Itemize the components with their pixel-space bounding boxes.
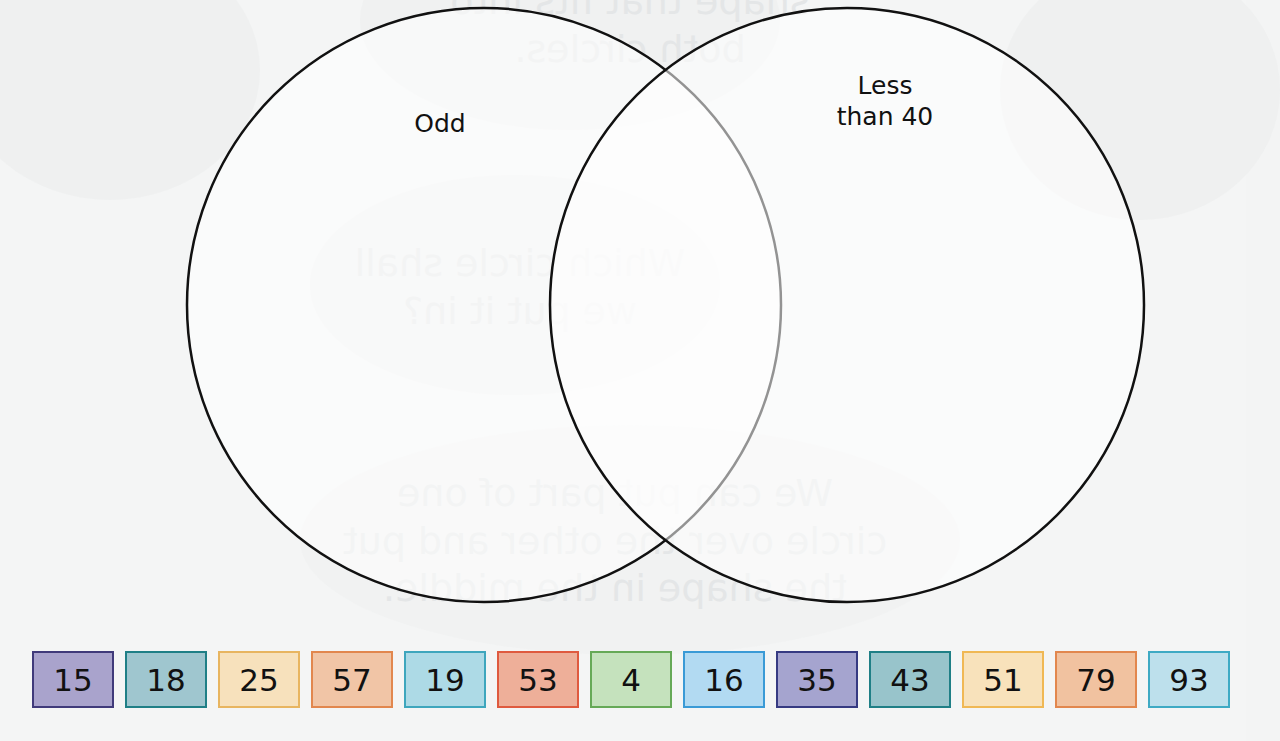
number-tile[interactable]: 53 [497,651,579,708]
number-tile[interactable]: 51 [962,651,1044,708]
number-tile[interactable]: 16 [683,651,765,708]
number-tile[interactable]: 79 [1055,651,1137,708]
number-tile[interactable]: 25 [218,651,300,708]
number-tile[interactable]: 15 [32,651,114,708]
less-than-40-set-label: Less than 40 [805,70,965,133]
number-tile[interactable]: 18 [125,651,207,708]
number-tile[interactable]: 93 [1148,651,1230,708]
number-tile[interactable]: 19 [404,651,486,708]
number-tile[interactable]: 57 [311,651,393,708]
odd-set-label: Odd [380,108,500,139]
number-tile[interactable]: 35 [776,651,858,708]
number-tile-bank: 1518255719534163543517993 [32,651,1232,709]
number-tile[interactable]: 4 [590,651,672,708]
number-tile[interactable]: 43 [869,651,951,708]
